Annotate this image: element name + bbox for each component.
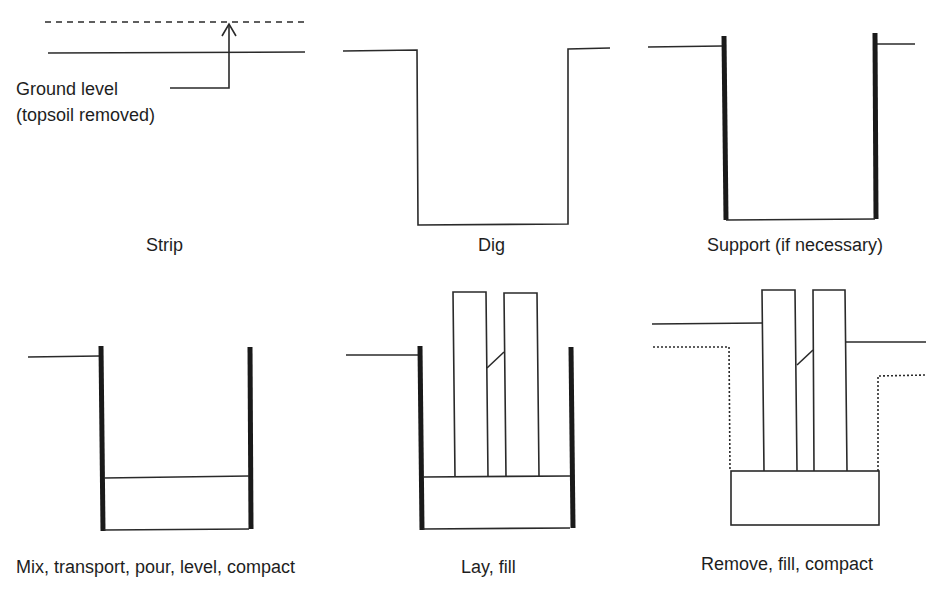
- trench-support-left: [101, 346, 103, 531]
- stripped-ground-line: [48, 52, 305, 53]
- panel-concrete: Mix, transport, pour, level, compact: [16, 346, 295, 577]
- ground-line-left: [652, 323, 762, 324]
- annotation-topsoil-removed: (topsoil removed): [16, 105, 155, 125]
- trench-support-right: [875, 33, 876, 219]
- foundation-top: [423, 476, 570, 477]
- annotation-ground-level: Ground level: [16, 79, 118, 99]
- step-label-backfill: Remove, fill, compact: [701, 554, 873, 574]
- panel-support: Support (if necessary): [648, 33, 915, 255]
- wall-tie: [797, 350, 813, 365]
- trench-bottom: [104, 529, 249, 530]
- wall-tie: [487, 352, 504, 368]
- step-label-concrete: Mix, transport, pour, level, compact: [16, 557, 295, 577]
- ground-line: [28, 356, 99, 357]
- panel-dig: Dig: [343, 48, 610, 255]
- wall-leaf-left: [762, 290, 797, 471]
- excavation-outline-left: [653, 347, 730, 471]
- concrete-foundation: [731, 471, 879, 525]
- concrete-top-surface: [104, 476, 249, 478]
- trench-outline: [343, 48, 610, 225]
- panel-backfill: Remove, fill, compact: [652, 290, 926, 574]
- trench-support-right: [250, 347, 251, 529]
- wall-leaf-left: [453, 292, 488, 477]
- step-label-dig: Dig: [478, 235, 505, 255]
- wall-leaf-right: [813, 290, 847, 471]
- trench-support-right: [571, 347, 573, 528]
- leader-line: [170, 24, 229, 88]
- foundation-bottom: [423, 528, 570, 529]
- panel-lay: Lay, fill: [346, 292, 573, 577]
- step-label-strip: Strip: [146, 235, 183, 255]
- trench-support-left: [420, 346, 422, 530]
- step-label-support: Support (if necessary): [707, 235, 883, 255]
- wall-leaf-right: [504, 293, 539, 477]
- trench-support-left: [724, 36, 726, 220]
- ground-line-left: [648, 46, 722, 47]
- foundation-process-diagram: Ground level (topsoil removed) Strip Dig…: [0, 0, 939, 593]
- trench-bottom: [726, 219, 875, 220]
- step-label-lay: Lay, fill: [461, 557, 516, 577]
- panel-strip: Ground level (topsoil removed) Strip: [16, 22, 305, 255]
- excavation-outline-right: [878, 375, 926, 471]
